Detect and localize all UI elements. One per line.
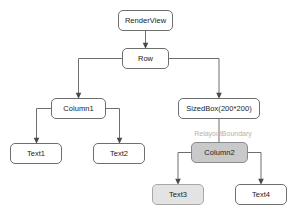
node-render-view-label: RenderView: [125, 17, 166, 25]
node-text2[interactable]: Text2: [93, 143, 145, 164]
relayout-boundary-annotation: RelayoutBoundary: [194, 130, 252, 137]
node-text3[interactable]: Text3: [152, 184, 204, 205]
node-column2[interactable]: Column2: [191, 142, 248, 163]
node-text4[interactable]: Text4: [235, 184, 287, 205]
edge-column1-text2: [106, 109, 120, 141]
node-render-view[interactable]: RenderView: [118, 10, 173, 31]
node-sized-box-label: SizedBox(200*200): [186, 105, 251, 113]
node-row[interactable]: Row: [122, 48, 169, 69]
edge-column2-text3: [178, 153, 191, 182]
node-column1[interactable]: Column1: [51, 98, 106, 119]
node-sized-box[interactable]: SizedBox(200*200): [178, 98, 260, 119]
node-text2-label: Text2: [110, 150, 128, 158]
edge-row-sizedbox: [169, 59, 219, 96]
node-row-label: Row: [138, 55, 153, 63]
edge-row-column1: [79, 59, 123, 96]
diagram-canvas: RenderView Row Column1 SizedBox(200*200)…: [0, 0, 297, 210]
node-text1-label: Text1: [27, 150, 45, 158]
edge-column2-text4: [248, 153, 261, 182]
edge-column1-text1: [37, 109, 52, 141]
relayout-boundary-annotation-text: RelayoutBoundary: [194, 130, 252, 137]
node-column2-label: Column2: [204, 149, 234, 157]
node-column1-label: Column1: [63, 105, 93, 113]
node-text4-label: Text4: [252, 191, 270, 199]
node-text3-label: Text3: [169, 191, 187, 199]
node-text1[interactable]: Text1: [10, 143, 62, 164]
